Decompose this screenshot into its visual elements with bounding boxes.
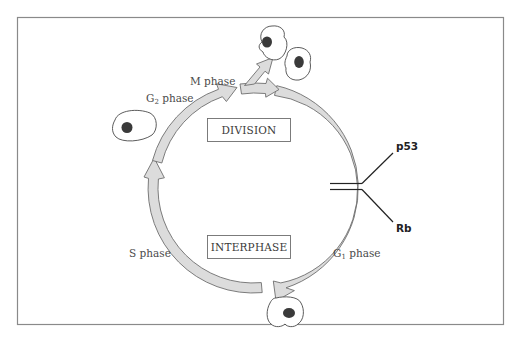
g1-cell <box>267 297 303 327</box>
rb-label: Rb <box>396 222 412 234</box>
g2-phase-label: G2 phase <box>146 92 194 106</box>
g1-arrow <box>273 86 358 301</box>
division-label: DIVISION <box>221 124 276 136</box>
p53-connector <box>362 153 393 184</box>
daughter-cell-2 <box>285 47 311 80</box>
daughter-cell-2-nucleus <box>294 56 304 68</box>
s-arrow <box>144 158 262 293</box>
g1-prefix: G <box>333 247 341 259</box>
g2-suffix: phase <box>159 92 194 104</box>
g2-prefix: G <box>146 92 154 104</box>
interphase-label: INTERPHASE <box>211 241 288 253</box>
rb-connector <box>362 190 393 223</box>
g2-cell-nucleus <box>122 122 133 133</box>
daughter-cell-1 <box>259 26 287 60</box>
cell-cycle-diagram: DIVISION INTERPHASE M phase G2 phase S p… <box>0 0 520 342</box>
s-phase-label: S phase <box>129 247 171 259</box>
inhibitor-symbol <box>330 153 393 222</box>
p53-label: p53 <box>396 140 418 152</box>
daughter-cell-1-nucleus <box>262 37 272 48</box>
g1-phase-label: G1 phase <box>333 247 381 261</box>
g2-cell <box>113 110 157 141</box>
m-arrow <box>240 78 279 97</box>
m-phase-label: M phase <box>190 75 235 87</box>
g1-cell-nucleus <box>283 308 295 318</box>
g1-suffix: phase <box>346 247 381 259</box>
